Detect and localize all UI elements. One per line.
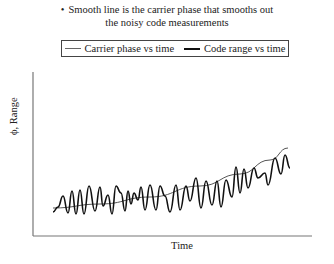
code-range-line: [53, 155, 290, 214]
y-axis-label: ϕ, Range: [8, 97, 19, 135]
carrier-phase-line: [53, 148, 288, 208]
plot-area: [0, 0, 334, 264]
x-axis-label: Time: [0, 240, 334, 251]
